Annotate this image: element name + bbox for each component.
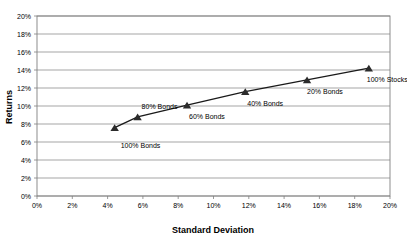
y-axis-tick-label: 18%: [17, 31, 31, 38]
data-point-label: 100% Stocks: [367, 76, 407, 83]
y-axis-tick-label: 12%: [17, 85, 31, 92]
x-axis-tick-label: 18%: [348, 202, 362, 209]
x-axis-tick-label: 20%: [383, 202, 397, 209]
y-axis-tick-label: 0%: [21, 193, 31, 200]
x-axis-tick-label: 12%: [242, 202, 256, 209]
y-axis-tick-label: 20%: [17, 13, 31, 20]
data-point-label: 100% Bonds: [121, 142, 161, 149]
x-axis-tick-label: 0%: [32, 202, 42, 209]
y-axis-tick-label: 16%: [17, 49, 31, 56]
data-point-label: 80% Bonds: [142, 103, 178, 110]
y-axis-title: Returns: [4, 90, 14, 124]
y-axis-tick-label: 6%: [21, 139, 31, 146]
x-axis-title: Standard Deviation: [172, 225, 254, 235]
x-axis-tick-label: 14%: [277, 202, 291, 209]
y-axis-tick-label: 8%: [21, 121, 31, 128]
x-axis-tick-label: 6%: [138, 202, 148, 209]
x-axis-tick-label: 8%: [173, 202, 183, 209]
data-point-label: 60% Bonds: [189, 113, 225, 120]
x-axis-tick-label: 2%: [67, 202, 77, 209]
x-axis-tick-label: 16%: [312, 202, 326, 209]
chart-container: 0%2%4%6%8%10%12%14%16%18%20% 0%2%4%6%8%1…: [0, 0, 407, 240]
y-axis-tick-label: 4%: [21, 157, 31, 164]
data-point-label: 40% Bonds: [247, 100, 283, 107]
y-axis-tick-label: 14%: [17, 67, 31, 74]
y-axis-tick-label: 2%: [21, 175, 31, 182]
x-axis-tick-label: 4%: [103, 202, 113, 209]
x-axis-tick-label: 10%: [206, 202, 220, 209]
y-axis-tick-label: 10%: [17, 103, 31, 110]
returns-vs-standard-deviation-chart: 0%2%4%6%8%10%12%14%16%18%20% 0%2%4%6%8%1…: [0, 0, 407, 240]
data-point-label: 20% Bonds: [307, 88, 343, 95]
